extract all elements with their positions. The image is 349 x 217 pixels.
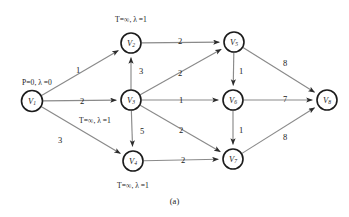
edge-v5-v8 xyxy=(243,48,315,93)
edge-weight-v5-v6: 1 xyxy=(239,67,243,76)
edge-weight-v2-v5: 2 xyxy=(178,37,182,46)
edge-v7-v8 xyxy=(242,108,315,154)
figure-caption: (a) xyxy=(0,196,349,206)
state-label-v2: T=∞, λ =1 xyxy=(115,16,147,24)
node-label-v4: V4 xyxy=(129,157,137,167)
graph-canvas xyxy=(0,0,349,217)
edge-weight-v7-v8: 8 xyxy=(283,133,287,142)
node-label-v8: V8 xyxy=(323,96,331,106)
edge-weight-v5-v8: 8 xyxy=(283,59,287,68)
edge-weight-v1-v4: 3 xyxy=(58,136,62,145)
edge-weight-v3-v6: 1 xyxy=(179,96,183,105)
edge-v1-v4 xyxy=(42,107,121,154)
state-label-v1: P=0, λ =0 xyxy=(22,79,52,87)
edge-v3-v4 xyxy=(131,111,132,147)
node-label-v1: V1 xyxy=(28,97,36,107)
edge-weight-v3-v5: 2 xyxy=(178,69,182,78)
edge-weight-v3-v2: 3 xyxy=(139,67,143,76)
node-label-v2: V2 xyxy=(127,39,135,49)
edge-weight-v3-v4: 5 xyxy=(140,127,144,136)
state-label-v3: T=∞, λ =1 xyxy=(79,117,111,125)
edge-weight-v3-v7: 2 xyxy=(179,126,183,135)
node-label-v5: V5 xyxy=(230,38,238,48)
node-label-v3: V3 xyxy=(127,96,135,106)
edge-v5-v6 xyxy=(233,53,234,86)
node-label-v6: V6 xyxy=(229,96,237,106)
edge-weight-v1-v3: 2 xyxy=(80,97,84,106)
state-label-v4: T=∞, λ =1 xyxy=(117,182,149,190)
node-label-v7: V7 xyxy=(229,155,237,165)
edge-weight-v4-v7: 2 xyxy=(181,156,185,165)
edge-weight-v6-v7: 1 xyxy=(239,126,243,135)
figure-container: 123322152218178V1V2V3V4V5V6V7V8P=0, λ =0… xyxy=(0,0,349,217)
edge-weight-v1-v2: 1 xyxy=(76,66,80,75)
edge-weight-v6-v8: 7 xyxy=(283,95,287,104)
